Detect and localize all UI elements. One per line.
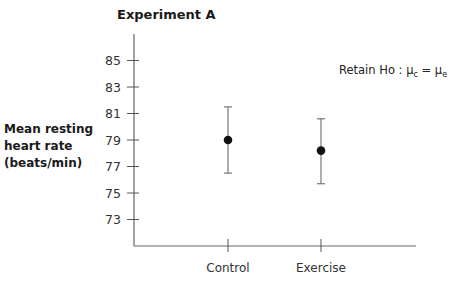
y-tick-label: 85 <box>105 53 121 68</box>
x-category-label: Control <box>206 261 249 275</box>
x-category-label: Exercise <box>296 261 346 275</box>
data-point <box>317 146 326 155</box>
y-tick-label: 75 <box>105 186 121 201</box>
data-point <box>224 136 233 145</box>
y-tick-label: 73 <box>105 212 121 227</box>
y-tick-label: 77 <box>105 159 121 174</box>
y-tick-label: 81 <box>105 106 121 121</box>
plot-area: 73757779818385ControlExercise <box>0 0 460 286</box>
y-tick-label: 79 <box>105 133 121 148</box>
y-tick-label: 83 <box>105 80 121 95</box>
